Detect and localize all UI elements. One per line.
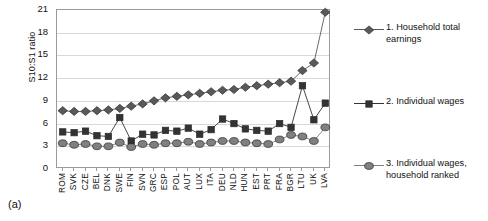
data-point (69, 107, 78, 115)
data-point (104, 106, 113, 114)
x-axis-tick-label-fra: FRA (274, 173, 284, 190)
data-point (139, 131, 145, 137)
x-axis-tick-label-lva: LVA (319, 173, 329, 188)
data-point (58, 140, 67, 147)
y-axis-tick-label: 6 (24, 117, 48, 128)
data-point (275, 79, 284, 87)
data-point (128, 138, 134, 144)
data-point (105, 133, 111, 139)
x-axis-tick-label-uk: UK (308, 173, 318, 185)
data-point (321, 8, 330, 16)
x-axis-tick-mark (153, 168, 154, 171)
legend-marker-diamond-icon (352, 23, 386, 37)
data-point (92, 107, 101, 115)
y-axis-tick-label: 12 (24, 71, 48, 82)
data-point (71, 129, 77, 135)
legend-item-2[interactable]: 2. Individual wages (352, 96, 484, 111)
legend-item-1[interactable]: 1. Household total earnings (352, 22, 484, 45)
data-point (161, 94, 170, 102)
x-axis-tick-label-svn: SVN (137, 173, 147, 191)
data-point (149, 97, 158, 105)
x-axis-tick-mark (85, 168, 86, 171)
data-point (184, 138, 193, 145)
x-axis-tick-mark (290, 168, 291, 171)
data-point (241, 139, 250, 146)
data-point (264, 80, 273, 88)
data-point (254, 127, 260, 133)
data-point (276, 120, 282, 126)
plot-area (56, 9, 330, 168)
x-axis-tick-label-esp: ESP (159, 173, 169, 190)
data-point (207, 139, 216, 146)
data-point (230, 138, 239, 145)
data-point (138, 100, 147, 108)
data-point (94, 132, 100, 138)
data-point (252, 140, 261, 147)
data-point (321, 124, 330, 131)
x-axis-tick-label-fin: FIN (125, 173, 135, 187)
data-point (298, 133, 307, 140)
x-axis-tick-mark (244, 168, 245, 171)
data-point (117, 114, 123, 120)
data-point (174, 128, 180, 134)
legend-item-3[interactable]: 3. Individual wages, household ranked (352, 158, 484, 181)
x-axis-tick-label-nld: NLD (228, 173, 238, 190)
data-point (185, 125, 191, 131)
data-point (151, 132, 157, 138)
x-axis-tick-mark (73, 168, 74, 171)
data-point (288, 124, 294, 130)
x-axis-tick-mark (199, 168, 200, 171)
data-point (229, 85, 238, 93)
x-axis-tick-mark (107, 168, 108, 171)
x-axis-tick-mark (176, 168, 177, 171)
x-axis-tick-label-bel: BEL (91, 173, 101, 189)
x-axis-tick-label-grc: GRC (148, 173, 158, 192)
series-line (63, 127, 326, 147)
data-point (70, 141, 79, 148)
data-point (162, 127, 168, 133)
data-point (104, 143, 113, 150)
y-axis-tick-label: 0 (24, 162, 48, 173)
y-axis-tick-label: 21 (24, 3, 48, 14)
data-point (115, 104, 124, 112)
x-axis-tick-label-aut: AUT (182, 173, 192, 190)
data-point (287, 132, 296, 139)
x-axis-tick-label-est: EST (251, 173, 261, 190)
legend-label: 1. Household total earnings (386, 22, 484, 45)
x-axis-tick-mark (313, 168, 314, 171)
chart-legend: 1. Household total earnings2. Individual… (352, 8, 484, 213)
x-axis-tick-mark (324, 168, 325, 171)
series-1 (58, 8, 330, 115)
data-point (197, 131, 203, 137)
x-axis-tick-label-bgr: BGR (285, 173, 295, 192)
data-point (93, 143, 102, 150)
x-axis-tick-mark (301, 168, 302, 171)
data-point (195, 89, 204, 97)
data-point (311, 117, 317, 123)
x-axis-tick-mark (62, 168, 63, 171)
legend-label: 2. Individual wages (386, 96, 464, 108)
x-axis-tick-label-dnk: DNK (102, 173, 112, 191)
data-point (231, 120, 237, 126)
data-point (184, 91, 193, 99)
data-point (161, 140, 170, 147)
x-axis-tick-label-pol: POL (171, 173, 181, 190)
x-axis-tick-label-hun: HUN (239, 173, 249, 192)
series-layer (57, 10, 331, 169)
data-point (241, 83, 250, 91)
y-axis-tick-label: 15 (24, 48, 48, 59)
panel-label: (a) (8, 198, 21, 210)
x-axis-tick-label-ltu: LTU (296, 173, 306, 189)
data-point (206, 88, 215, 96)
y-axis-tick-label: 9 (24, 94, 48, 105)
data-point (150, 141, 159, 148)
data-point (309, 59, 318, 67)
x-axis-tick-label-cze: CZE (80, 173, 90, 190)
data-point (265, 128, 271, 134)
x-axis-tick-label-swe: SWE (114, 173, 124, 193)
x-axis-tick-label-ita: ITA (205, 173, 215, 186)
data-point (138, 141, 147, 148)
series-line (63, 12, 326, 111)
legend-label: 3. Individual wages, household ranked (386, 158, 484, 181)
chart-figure: S10:S1 ratio 036912151821 ROMSVKCZEBELDN… (0, 0, 488, 221)
